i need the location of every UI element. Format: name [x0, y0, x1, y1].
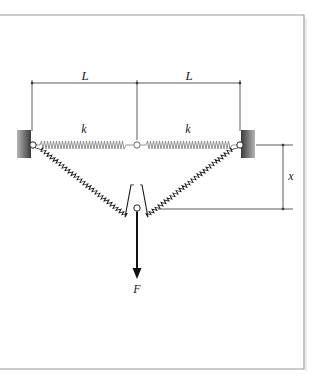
force-arrow	[133, 212, 142, 280]
left-wall-support	[17, 130, 31, 158]
center-pin-loaded	[134, 205, 140, 211]
unstretched-spring-left	[35, 141, 133, 149]
force-label: F	[132, 282, 141, 296]
displacement-label: x	[287, 169, 294, 183]
figure-frame	[0, 15, 306, 371]
spring-constant-label-right: k	[185, 122, 191, 136]
length-label-left: L	[80, 68, 88, 83]
stretched-spring-right	[140, 148, 238, 217]
length-label-right: L	[184, 68, 192, 83]
center-pin-unloaded	[134, 142, 140, 148]
spring-constant-label-left: k	[81, 122, 87, 136]
spring-system-diagram: L L k k x F	[0, 0, 316, 378]
displacement-dimension	[158, 144, 293, 210]
right-pin-joint	[237, 142, 243, 148]
left-pin-joint	[30, 142, 36, 148]
stretched-spring-left	[35, 148, 134, 217]
length-dimension	[31, 80, 241, 140]
unstretched-spring-right	[141, 141, 238, 149]
